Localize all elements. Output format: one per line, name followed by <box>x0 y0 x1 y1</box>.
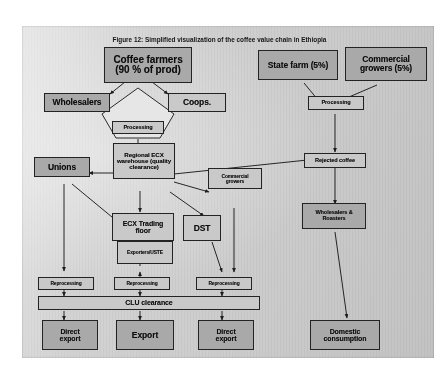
processing-right-label: Processing <box>321 100 350 106</box>
node-unions[interactable]: Unions <box>34 157 90 177</box>
unions-label: Unions <box>48 163 76 172</box>
node-direct-export-1[interactable]: Direct export <box>42 320 98 350</box>
figure-title: Figure 12: Simplified visualization of t… <box>0 36 439 43</box>
domestic-consumption-line2: consumption <box>324 335 367 342</box>
direct-export-1-line2: export <box>60 335 81 342</box>
domestic-consumption-line1: Domestic <box>330 328 361 335</box>
node-processing-left[interactable]: Processing <box>112 121 164 134</box>
node-reprocessing-3[interactable]: Reprocessing <box>196 277 252 290</box>
node-processing-right[interactable]: Processing <box>308 96 364 110</box>
coops-label: Coops. <box>183 98 211 107</box>
node-coffee-farmers[interactable]: Coffee farmers (90 % of prod) <box>104 47 192 83</box>
wholesalers-label: Wholesalers <box>53 98 102 107</box>
direct-export-2-line2: export <box>216 335 237 342</box>
rejected-coffee-label: Rejected coffee <box>315 158 355 164</box>
commercial-growers-top-line2: growers (5%) <box>360 64 412 73</box>
node-direct-export-2[interactable]: Direct export <box>198 320 254 350</box>
node-state-farm[interactable]: State farm (5%) <box>258 50 338 80</box>
node-ecx-trading-floor[interactable]: ECX Trading floor <box>112 213 174 241</box>
node-coops[interactable]: Coops. <box>168 93 226 112</box>
node-rejected-coffee[interactable]: Rejected coffee <box>304 153 366 168</box>
state-farm-label: State farm (5%) <box>268 61 328 70</box>
node-reprocessing-2[interactable]: Reprocessing <box>114 277 170 290</box>
processing-left-label: Processing <box>123 125 152 131</box>
node-commercial-growers-mid[interactable]: Commercial growers <box>208 168 262 189</box>
dst-label: DST <box>194 224 211 233</box>
ecx-trading-floor-line2: floor <box>135 227 150 234</box>
node-export[interactable]: Export <box>116 320 174 350</box>
ecx-warehouse-line3: clearance) <box>129 164 159 170</box>
wholesalers-roasters-line2: Roasters <box>322 216 345 222</box>
node-wholesalers[interactable]: Wholesalers <box>44 93 110 112</box>
coffee-farmers-line2: (90 % of prod) <box>115 65 180 75</box>
reprocessing-1-label: Reprocessing <box>50 281 81 286</box>
direct-export-2-line1: Direct <box>216 328 235 335</box>
commercial-growers-mid-line2: growers <box>226 179 244 184</box>
node-clu-clearance[interactable]: CLU clearance <box>38 296 260 310</box>
node-reprocessing-1[interactable]: Reprocessing <box>38 277 94 290</box>
reprocessing-2-label: Reprocessing <box>126 281 157 286</box>
node-domestic-consumption[interactable]: Domestic consumption <box>310 320 380 350</box>
node-wholesalers-roasters[interactable]: Wholesalers & Roasters <box>302 203 366 229</box>
exporters-label: Exporters/USTE <box>127 250 163 255</box>
ecx-trading-floor-line1: ECX Trading <box>123 220 164 227</box>
clu-clearance-label: CLU clearance <box>125 299 172 306</box>
export-label: Export <box>132 331 158 340</box>
figure-page: Figure 12: Simplified visualization of t… <box>0 0 439 382</box>
reprocessing-3-label: Reprocessing <box>208 281 239 286</box>
direct-export-1-line1: Direct <box>60 328 79 335</box>
node-ecx-warehouse[interactable]: Regional ECX warehouse (quality clearanc… <box>113 143 175 179</box>
node-exporters[interactable]: Exporters/USTE <box>117 241 173 264</box>
node-dst[interactable]: DST <box>183 215 221 241</box>
node-commercial-growers-top[interactable]: Commercial growers (5%) <box>345 47 427 81</box>
